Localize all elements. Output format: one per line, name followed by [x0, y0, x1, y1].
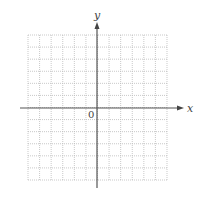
y-axis-label: y	[93, 9, 101, 22]
y-axis-arrow-icon	[95, 22, 100, 29]
x-axis-label: x	[187, 102, 194, 115]
origin-label: 0	[88, 109, 94, 120]
coordinate-plane: x y 0	[0, 0, 200, 201]
x-axis-arrow-icon	[177, 106, 184, 111]
